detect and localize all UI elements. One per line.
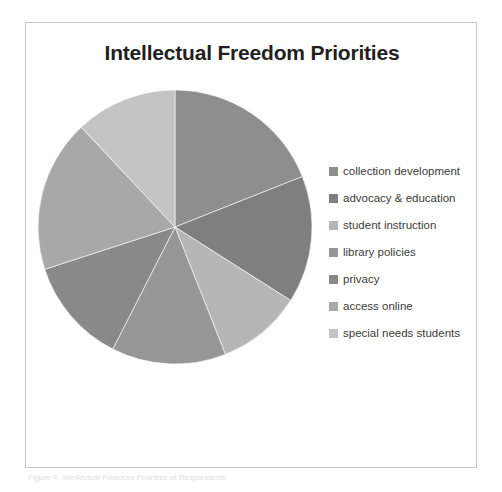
legend-item[interactable]: access online [329, 298, 477, 314]
legend-item[interactable]: advocacy & education [329, 190, 477, 206]
pie-slice-group [38, 90, 312, 364]
legend-item[interactable]: student instruction [329, 217, 477, 233]
legend-item-label: privacy [343, 273, 379, 286]
chart-frame: Intellectual Freedom Priorities collecti… [25, 22, 477, 468]
legend-item-label: access online [343, 300, 413, 313]
pie-chart [37, 89, 313, 365]
legend-item[interactable]: library policies [329, 244, 477, 260]
legend-item[interactable]: special needs students [329, 325, 477, 341]
legend-swatch-icon [329, 221, 338, 230]
legend-swatch-icon [329, 194, 338, 203]
legend-item[interactable]: collection development [329, 163, 477, 179]
legend-item[interactable]: privacy [329, 271, 477, 287]
page-title: Intellectual Freedom Priorities [26, 41, 478, 65]
legend-swatch-icon [329, 167, 338, 176]
figure-caption: Figure 4. Intellectual Freedom Prioritie… [28, 473, 458, 482]
legend-item-label: special needs students [343, 327, 460, 340]
legend-swatch-icon [329, 302, 338, 311]
legend-item-label: library policies [343, 246, 416, 259]
legend-item-label: student instruction [343, 219, 436, 232]
legend-item-label: collection development [343, 165, 460, 178]
legend-swatch-icon [329, 329, 338, 338]
legend-swatch-icon [329, 275, 338, 284]
legend-item-label: advocacy & education [343, 192, 456, 205]
pie-chart-svg [37, 89, 313, 365]
legend-swatch-icon [329, 248, 338, 257]
chart-legend: collection developmentadvocacy & educati… [329, 163, 477, 352]
